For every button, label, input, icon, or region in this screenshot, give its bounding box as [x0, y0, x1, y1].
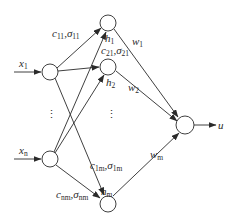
input-node-x1 [42, 64, 58, 80]
edge-h2-out [116, 71, 177, 121]
label-x1: x1 [19, 58, 28, 71]
hidden-node-h2 [100, 59, 116, 75]
label-u: u [218, 120, 224, 131]
label-c11-sigma11: c11,σ11 [52, 28, 80, 41]
label-wm: wm [150, 149, 163, 162]
edge-xn-h1 [54, 32, 106, 152]
edge-hm-out [113, 133, 179, 196]
label-w2: w2 [128, 82, 139, 95]
label-c21-sigma21: c21,σ21 [101, 45, 129, 58]
output-node [176, 116, 194, 134]
input-node-xn [42, 151, 58, 167]
label-c1m-sigma1m: c1m,σ1m [90, 160, 122, 173]
edge-x1-h2 [58, 67, 99, 71]
hidden-node-h1 [100, 15, 116, 31]
label-h2: h2 [106, 77, 115, 90]
label-cnm-sigmanm: cnm,σnm [56, 189, 88, 202]
hidden-ellipsis: ⋮ [106, 112, 117, 116]
label-xn: xn [19, 145, 28, 158]
label-hm: hm [101, 186, 112, 199]
edge-xn-h2 [55, 75, 104, 153]
edge-x1-hm [55, 78, 104, 195]
edge-h1-out [114, 29, 178, 117]
label-w1: w1 [132, 36, 143, 49]
input-ellipsis: ⋮ [46, 112, 57, 116]
